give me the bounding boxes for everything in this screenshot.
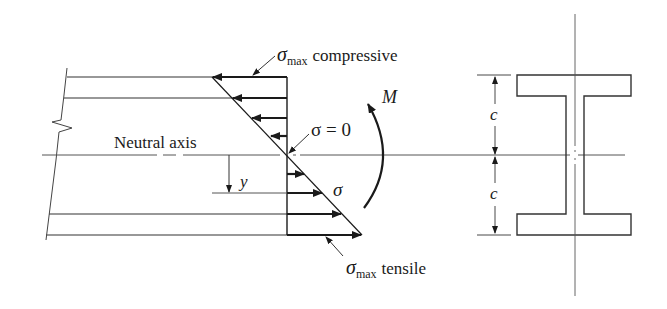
leader-compressive	[253, 56, 275, 75]
label-y: y	[240, 173, 248, 190]
compressive-text: compressive	[313, 46, 398, 65]
leader-tensile	[326, 237, 343, 256]
leader-sigma-zero	[289, 134, 309, 153]
subscript-max: max	[356, 267, 377, 281]
label-sigma-max-compressive: σmax compressive	[277, 44, 398, 64]
leader-lines	[253, 56, 343, 256]
subscript-max: max	[287, 54, 308, 68]
y-dimension	[212, 155, 287, 193]
label-sigma-zero: σ = 0	[311, 120, 351, 139]
beam-side-view	[46, 68, 287, 240]
label-neutral-axis: Neutral axis	[114, 134, 197, 151]
sigma-symbol: σ	[346, 256, 356, 278]
label-c-top: c	[490, 106, 498, 123]
label-moment-M: M	[382, 88, 397, 106]
label-c-bottom: c	[490, 185, 498, 202]
moment-arrow	[364, 104, 383, 208]
stress-distribution	[212, 77, 362, 235]
label-sigma-max-tensile: σmax tensile	[346, 257, 426, 277]
sigma-symbol: σ	[277, 43, 287, 65]
bending-stress-diagram: σmax compressive σ = 0 M Neutral axis y …	[0, 0, 667, 309]
tensile-text: tensile	[382, 259, 426, 278]
label-sigma: σ	[333, 180, 342, 199]
